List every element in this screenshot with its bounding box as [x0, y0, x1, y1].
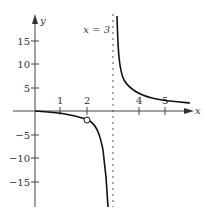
x-axis-arrow-icon: [184, 108, 194, 114]
x-axis-label: x: [195, 105, 201, 116]
y-tick-label: 15: [17, 36, 30, 47]
curve-left-branch: [35, 111, 108, 207]
curve-right-branch: [117, 16, 190, 103]
chart: y x 1 2 4 5 15 10 5 −5 −10 −15 x = 3: [0, 0, 206, 217]
y-tick-label: −5: [15, 130, 30, 141]
y-axis-arrow-icon: [32, 14, 38, 24]
y-tick-label: −15: [9, 177, 30, 188]
open-point-marker: [84, 117, 90, 123]
x-tick-label: 2: [84, 95, 90, 106]
y-axis-label: y: [39, 15, 46, 26]
x-tick-label: 1: [57, 95, 63, 106]
x-tick-label: 4: [136, 95, 142, 106]
y-tick-label: 10: [17, 59, 30, 70]
y-tick-label: 5: [24, 83, 30, 94]
asymptote-label: x = 3: [83, 24, 110, 35]
y-tick-label: −10: [9, 153, 30, 164]
